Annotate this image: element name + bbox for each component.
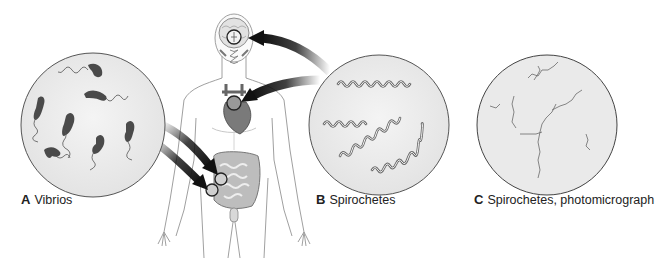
photomicrograph-circle [477, 55, 617, 195]
panel-a-caption: Vibrios [34, 193, 72, 207]
spirochetes-circle [309, 55, 449, 195]
panel-b-letter: B [316, 192, 325, 207]
panel-b-label: BSpirochetes [316, 192, 395, 207]
panel-c-caption: Spirochetes, photomicrograph [487, 193, 654, 207]
vibrios-circle [21, 53, 165, 197]
panel-b-caption: Spirochetes [329, 193, 395, 207]
panel-c-label: CSpirochetes, photomicrograph [474, 192, 654, 207]
arrow-to-heart [241, 80, 320, 102]
heart-icon [222, 84, 251, 134]
panel-a-label: AVibrios [21, 192, 72, 207]
figure-illustration [0, 0, 667, 258]
arrow-to-brain [248, 30, 330, 72]
panel-c-letter: C [474, 192, 483, 207]
panel-a-letter: A [21, 192, 30, 207]
